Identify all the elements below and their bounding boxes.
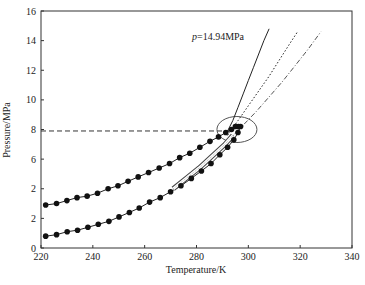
data-point-marker	[147, 199, 153, 205]
data-point-marker	[157, 195, 163, 201]
data-point-marker	[216, 134, 222, 140]
data-point-marker	[116, 214, 122, 220]
annotation-value: =14.94MPa	[197, 31, 245, 42]
y-tick-label: 12	[26, 65, 36, 76]
y-tick-label: 16	[26, 6, 36, 17]
data-point-marker	[43, 202, 49, 208]
y-tick-label: 2	[31, 183, 36, 194]
x-tick-label: 260	[137, 251, 152, 262]
y-tick-label: 6	[31, 154, 36, 165]
data-point-marker	[64, 198, 70, 204]
data-point-marker	[84, 193, 90, 199]
data-point-marker	[238, 124, 244, 130]
data-point-marker	[135, 174, 141, 180]
data-point-marker	[95, 222, 101, 228]
y-tick-label: 10	[26, 94, 36, 105]
data-point-marker	[43, 233, 49, 239]
data-point-marker	[95, 190, 101, 196]
data-point-marker	[105, 186, 111, 192]
data-point-marker	[156, 165, 162, 171]
data-point-marker	[106, 219, 112, 225]
data-point-marker	[197, 144, 203, 150]
data-point-marker	[54, 201, 60, 207]
dashed-curve	[230, 32, 321, 139]
data-point-marker	[199, 168, 205, 174]
data-point-marker	[231, 137, 237, 143]
data-point-marker	[125, 179, 131, 185]
critical-region-ellipse	[217, 117, 257, 143]
data-point-marker	[177, 155, 183, 161]
y-tick-label: 14	[26, 35, 36, 46]
data-point-marker	[207, 139, 213, 145]
axis-ticks: 2202402602803003203400226810121416	[26, 6, 360, 263]
data-point-marker	[187, 150, 193, 156]
data-series	[46, 29, 321, 236]
data-point-marker	[54, 232, 60, 238]
plot-border	[41, 11, 352, 248]
pressure-annotation: p=14.94MPa	[191, 31, 245, 42]
data-point-marker	[85, 224, 91, 230]
data-point-marker	[127, 210, 133, 216]
data-point-marker	[217, 152, 223, 158]
solid-curve-14.94MPa	[228, 29, 270, 131]
data-point-marker	[208, 161, 214, 167]
data-point-marker	[74, 195, 80, 201]
data-point-marker	[225, 144, 231, 150]
data-point-marker	[178, 183, 184, 189]
x-axis-title: Temperature/K	[166, 264, 227, 275]
dotted-curve	[228, 32, 298, 136]
y-tick-label: 2	[31, 213, 36, 224]
y-tick-label: 0	[31, 243, 36, 254]
plot-frame	[41, 11, 352, 248]
y-axis-title: Pressure/MPa	[1, 102, 12, 158]
data-point-marker	[75, 227, 81, 233]
pressure-temperature-chart: 2202402602803003203400226810121416 Tempe…	[0, 0, 365, 285]
reference-lines	[41, 117, 257, 143]
x-tick-label: 300	[241, 251, 256, 262]
data-point-marker	[168, 189, 174, 195]
data-markers	[43, 124, 243, 239]
y-tick-label: 8	[31, 124, 36, 135]
x-tick-label: 340	[345, 251, 360, 262]
data-point-marker	[223, 130, 229, 136]
x-tick-label: 320	[293, 251, 308, 262]
data-point-marker	[64, 229, 70, 235]
data-point-marker	[136, 205, 142, 211]
data-point-marker	[235, 130, 241, 136]
x-tick-label: 280	[189, 251, 204, 262]
data-point-marker	[189, 176, 195, 182]
data-point-marker	[167, 161, 173, 167]
data-point-marker	[146, 170, 152, 176]
data-point-marker	[115, 183, 121, 189]
x-tick-label: 240	[85, 251, 100, 262]
